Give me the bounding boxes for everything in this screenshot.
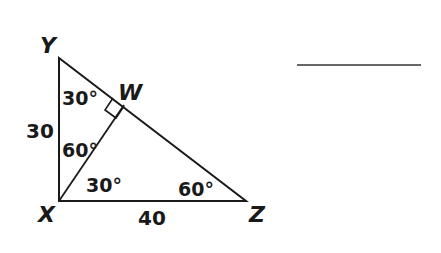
vertex-label-y: Y: [40, 33, 58, 58]
vertex-label-x: X: [36, 202, 56, 227]
angle-label-z: 60°: [178, 178, 214, 200]
side-label-xz: 40: [138, 206, 166, 230]
side-label-xy: 30: [26, 119, 54, 143]
vertex-label-w: W: [118, 80, 144, 105]
angle-label-yxw: 60°: [62, 139, 98, 161]
angle-label-y: 30°: [62, 87, 98, 109]
triangle-diagram: Y W X Z 30 40 30° 60° 30° 60°: [0, 0, 441, 253]
angle-label-wxz: 30°: [86, 174, 122, 196]
vertex-label-z: Z: [248, 202, 266, 227]
